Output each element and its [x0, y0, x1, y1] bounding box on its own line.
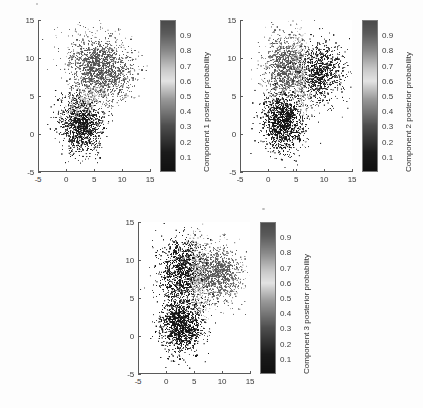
colorbar-ticklabel-component-1-6: 0.7	[180, 61, 191, 70]
y-ticklabel-component-2-0: -5	[218, 168, 236, 177]
x-ticklabel-component-1-2: 5	[92, 175, 96, 184]
x-tick-component-1-3	[122, 169, 123, 172]
y-tick-component-3-4	[138, 222, 141, 223]
chart-panel-component-3: -5051015-50510150.10.20.30.40.50.60.70.8…	[108, 208, 313, 404]
x-tick-component-1-1	[66, 169, 67, 172]
x-tick-component-3-4	[250, 371, 251, 374]
colorbar-ticklabel-component-3-4: 0.5	[280, 294, 291, 303]
y-ticklabel-component-1-4: 15	[16, 16, 34, 25]
x-ticklabel-component-2-4: 15	[348, 175, 357, 184]
x-ticklabel-component-1-0: -5	[35, 175, 42, 184]
y-ticklabel-component-2-1: 0	[218, 130, 236, 139]
colorbar-ticklabel-component-2-0: 0.1	[382, 152, 393, 161]
x-ticklabel-component-1-4: 15	[146, 175, 155, 184]
plot-axes-component-3	[138, 222, 250, 374]
colorbar-ticklabel-component-3-0: 0.1	[280, 354, 291, 363]
y-tick-component-3-0	[138, 374, 141, 375]
colorbar-title-component-1: Component 1 posterior probability	[202, 52, 211, 172]
scan-artifact-speck	[36, 3, 38, 5]
colorbar-ticklabel-component-2-5: 0.6	[382, 76, 393, 85]
colorbar-ticklabel-component-2-8: 0.9	[382, 31, 393, 40]
colorbar-ticklabel-component-1-8: 0.9	[180, 31, 191, 40]
colorbar-ticklabel-component-1-4: 0.5	[180, 92, 191, 101]
y-tick-component-2-0	[240, 172, 243, 173]
y-tick-component-3-2	[138, 298, 141, 299]
x-ticklabel-component-3-0: -5	[135, 377, 142, 386]
y-ticklabel-component-2-4: 15	[218, 16, 236, 25]
figure-canvas: -5051015-50510150.10.20.30.40.50.60.70.8…	[0, 0, 423, 408]
y-ticklabel-component-3-2: 5	[116, 294, 134, 303]
x-tick-component-1-2	[94, 169, 95, 172]
colorbar-component-1	[160, 20, 176, 172]
x-tick-component-3-3	[222, 371, 223, 374]
colorbar-ticklabel-component-3-8: 0.9	[280, 233, 291, 242]
colorbar-ticklabel-component-2-4: 0.5	[382, 92, 393, 101]
x-ticklabel-component-2-1: 0	[266, 175, 270, 184]
y-tick-component-2-3	[240, 58, 243, 59]
x-tick-component-3-2	[194, 371, 195, 374]
colorbar-component-2	[362, 20, 378, 172]
x-tick-component-3-1	[166, 371, 167, 374]
y-tick-component-1-1	[38, 134, 41, 135]
colorbar-ticklabel-component-1-5: 0.6	[180, 76, 191, 85]
y-ticklabel-component-1-1: 0	[16, 130, 34, 139]
x-tick-component-2-3	[324, 169, 325, 172]
colorbar-component-3	[260, 222, 276, 374]
x-ticklabel-component-2-0: -5	[237, 175, 244, 184]
x-tick-component-1-4	[150, 169, 151, 172]
x-ticklabel-component-3-3: 10	[218, 377, 227, 386]
y-ticklabel-component-3-0: -5	[116, 370, 134, 379]
y-ticklabel-component-3-4: 15	[116, 218, 134, 227]
y-tick-component-1-0	[38, 172, 41, 173]
y-ticklabel-component-1-0: -5	[16, 168, 34, 177]
colorbar-ticklabel-component-2-6: 0.7	[382, 61, 393, 70]
x-ticklabel-component-2-2: 5	[294, 175, 298, 184]
y-tick-component-2-4	[240, 20, 243, 21]
scatter-points-component-2	[241, 20, 352, 171]
x-tick-component-2-4	[352, 169, 353, 172]
x-tick-component-2-1	[268, 169, 269, 172]
y-ticklabel-component-3-3: 10	[116, 256, 134, 265]
plot-axes-component-2	[240, 20, 352, 172]
y-ticklabel-component-2-2: 5	[218, 92, 236, 101]
colorbar-ticklabel-component-3-6: 0.7	[280, 263, 291, 272]
plot-axes-component-1	[38, 20, 150, 172]
colorbar-title-component-2: Component 2 posterior probability	[404, 52, 413, 172]
colorbar-ticklabel-component-3-1: 0.2	[280, 339, 291, 348]
x-tick-component-2-2	[296, 169, 297, 172]
y-ticklabel-component-1-2: 5	[16, 92, 34, 101]
colorbar-ticklabel-component-1-3: 0.4	[180, 107, 191, 116]
colorbar-title-component-3: Component 3 posterior probability	[302, 254, 311, 374]
y-ticklabel-component-1-3: 10	[16, 54, 34, 63]
colorbar-ticklabel-component-2-1: 0.2	[382, 137, 393, 146]
y-tick-component-2-1	[240, 134, 243, 135]
y-tick-component-3-3	[138, 260, 141, 261]
colorbar-ticklabel-component-3-5: 0.6	[280, 278, 291, 287]
y-ticklabel-component-2-3: 10	[218, 54, 236, 63]
colorbar-ticklabel-component-1-2: 0.3	[180, 122, 191, 131]
colorbar-ticklabel-component-3-7: 0.8	[280, 248, 291, 257]
chart-panel-component-1: -5051015-50510150.10.20.30.40.50.60.70.8…	[6, 6, 211, 202]
y-tick-component-2-2	[240, 96, 243, 97]
colorbar-ticklabel-component-2-2: 0.3	[382, 122, 393, 131]
x-ticklabel-component-1-3: 10	[118, 175, 127, 184]
y-tick-component-1-3	[38, 58, 41, 59]
x-ticklabel-component-3-4: 15	[246, 377, 255, 386]
colorbar-ticklabel-component-3-3: 0.4	[280, 309, 291, 318]
x-ticklabel-component-3-2: 5	[192, 377, 196, 386]
scatter-points-component-3	[139, 222, 250, 373]
y-ticklabel-component-3-1: 0	[116, 332, 134, 341]
colorbar-ticklabel-component-3-2: 0.3	[280, 324, 291, 333]
y-tick-component-1-4	[38, 20, 41, 21]
y-tick-component-3-1	[138, 336, 141, 337]
x-ticklabel-component-1-1: 0	[64, 175, 68, 184]
colorbar-ticklabel-component-2-3: 0.4	[382, 107, 393, 116]
colorbar-ticklabel-component-1-0: 0.1	[180, 152, 191, 161]
chart-panel-component-2: -5051015-50510150.10.20.30.40.50.60.70.8…	[212, 6, 417, 202]
scatter-points-component-1	[39, 20, 150, 171]
x-ticklabel-component-2-3: 10	[320, 175, 329, 184]
y-tick-component-1-2	[38, 96, 41, 97]
colorbar-ticklabel-component-2-7: 0.8	[382, 46, 393, 55]
colorbar-ticklabel-component-1-7: 0.8	[180, 46, 191, 55]
colorbar-ticklabel-component-1-1: 0.2	[180, 137, 191, 146]
